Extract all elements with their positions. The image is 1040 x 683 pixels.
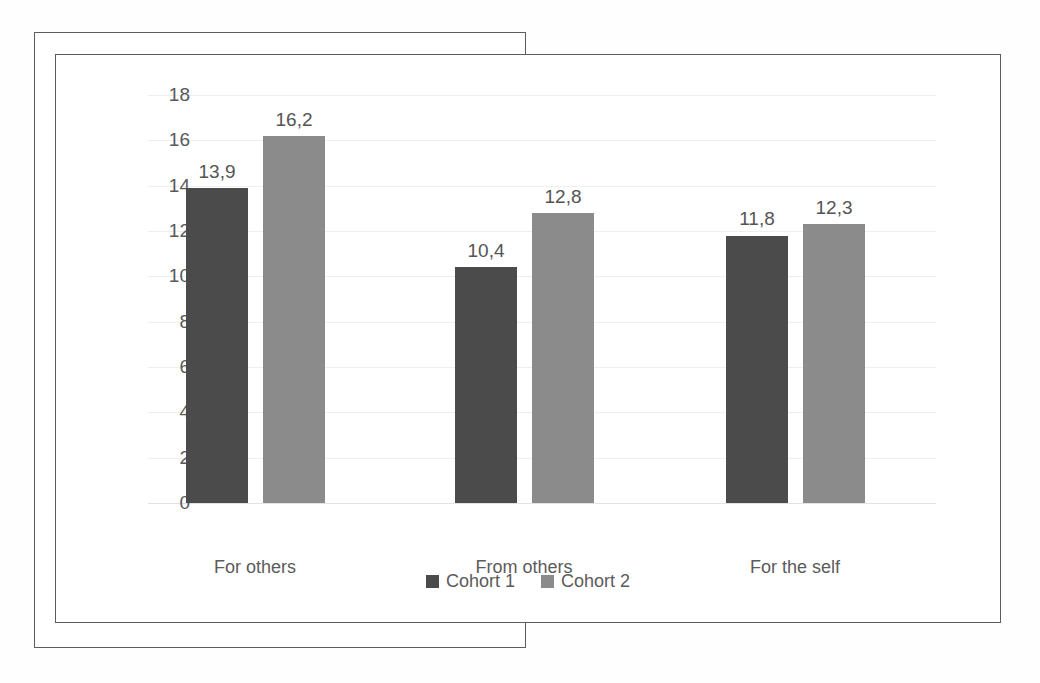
bar-label-cohort2-from-others: 12,8 [545, 186, 582, 208]
y-axis-tick-16: 16 [130, 129, 190, 151]
y-axis-tick-14: 14 [130, 175, 190, 197]
bar-label-cohort2-for-others: 16,2 [276, 109, 313, 131]
plot-area: 18 16 14 12 10 8 6 4 2 0 13,9 16,2 10,4 [148, 95, 936, 503]
y-axis-tick-8: 8 [130, 311, 190, 333]
bar-label-cohort1-from-others: 10,4 [468, 240, 505, 262]
y-axis-tick-2: 2 [130, 447, 190, 469]
y-axis-tick-6: 6 [130, 356, 190, 378]
legend-item-cohort1[interactable]: Cohort 1 [426, 571, 515, 592]
legend-label-cohort1: Cohort 1 [446, 571, 515, 592]
bar-cohort1-from-others[interactable] [455, 267, 517, 503]
bar-cohort2-for-the-self[interactable] [803, 224, 865, 503]
legend-swatch-icon-cohort2 [541, 575, 554, 588]
legend-label-cohort2: Cohort 2 [561, 571, 630, 592]
y-axis-tick-12: 12 [130, 220, 190, 242]
legend-swatch-icon-cohort1 [426, 575, 439, 588]
bar-chart: 18 16 14 12 10 8 6 4 2 0 13,9 16,2 10,4 [56, 55, 1000, 622]
bar-cohort2-from-others[interactable] [532, 213, 594, 503]
gridline-18 [148, 95, 936, 96]
y-axis-tick-0: 0 [130, 492, 190, 514]
gridline-0-baseline [148, 503, 936, 504]
bar-label-cohort1-for-others: 13,9 [199, 161, 236, 183]
legend-item-cohort2[interactable]: Cohort 2 [541, 571, 630, 592]
chart-legend: Cohort 1 Cohort 2 [56, 571, 1000, 592]
y-axis-tick-4: 4 [130, 401, 190, 423]
bar-label-cohort2-for-the-self: 12,3 [816, 197, 853, 219]
bar-cohort2-for-others[interactable] [263, 136, 325, 503]
bar-label-cohort1-for-the-self: 11,8 [739, 208, 775, 230]
bar-cohort1-for-the-self[interactable] [726, 236, 788, 503]
scanned-page: 18 16 14 12 10 8 6 4 2 0 13,9 16,2 10,4 [0, 0, 1040, 683]
y-axis-tick-10: 10 [130, 265, 190, 287]
bar-cohort1-for-others[interactable] [186, 188, 248, 503]
y-axis-tick-18: 18 [130, 84, 190, 106]
